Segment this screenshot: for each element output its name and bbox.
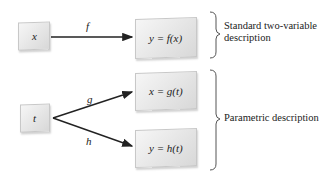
input-t-box: t [20, 103, 50, 132]
parametric-description: Parametric description [224, 112, 329, 124]
function-h-label: h [86, 135, 92, 147]
arrow-h [53, 118, 132, 146]
brace-parametric [210, 70, 220, 170]
input-x-label: x [32, 30, 37, 42]
function-f-label: f [86, 20, 89, 32]
input-x-box: x [18, 21, 50, 50]
output-x-gt-box: x = g(t) [135, 71, 197, 111]
output-y-fx-label: y = f(x) [149, 32, 182, 44]
output-y-ht-box: y = h(t) [135, 128, 197, 168]
function-g-label: g [87, 93, 93, 105]
output-y-ht-label: y = h(t) [149, 142, 183, 154]
output-x-gt-label: x = g(t) [149, 85, 183, 97]
standard-description: Standard two-variable description [224, 20, 324, 44]
output-y-fx-box: y = f(x) [135, 17, 197, 59]
input-t-label: t [33, 112, 36, 124]
brace-standard [210, 12, 220, 58]
